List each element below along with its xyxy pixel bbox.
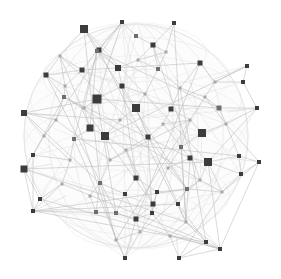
node-square bbox=[225, 123, 228, 126]
node-square bbox=[134, 217, 139, 222]
node-square bbox=[72, 137, 76, 141]
graph-node bbox=[134, 34, 138, 38]
node-square bbox=[64, 85, 67, 88]
node-square bbox=[132, 104, 140, 112]
node-square bbox=[59, 55, 62, 58]
node-square bbox=[98, 181, 102, 185]
graph-node bbox=[134, 176, 139, 181]
graph-node bbox=[98, 181, 102, 185]
node-square bbox=[177, 256, 181, 260]
node-square bbox=[167, 167, 170, 170]
node-square bbox=[125, 149, 128, 152]
graph-node bbox=[119, 119, 122, 122]
node-square bbox=[61, 183, 64, 186]
graph-node bbox=[139, 231, 142, 234]
graph-node bbox=[237, 154, 241, 158]
node-square bbox=[123, 256, 127, 260]
graph-node bbox=[146, 135, 151, 140]
node-square bbox=[169, 107, 174, 112]
graph-node bbox=[151, 202, 156, 207]
graph-node bbox=[185, 221, 188, 224]
graph-node bbox=[38, 197, 42, 201]
graph-node bbox=[44, 73, 49, 78]
graph-node bbox=[214, 81, 217, 84]
graph-node bbox=[21, 110, 27, 116]
graph-node bbox=[123, 192, 127, 196]
graph-node bbox=[80, 25, 88, 33]
node-square bbox=[146, 135, 151, 140]
node-square bbox=[83, 107, 86, 110]
node-square bbox=[114, 211, 118, 215]
graph-node bbox=[120, 20, 124, 24]
graph-node bbox=[101, 132, 109, 140]
graph-node bbox=[255, 106, 259, 110]
graph-node bbox=[55, 119, 58, 122]
node-square bbox=[204, 96, 207, 99]
node-square bbox=[165, 51, 168, 54]
graph-node bbox=[241, 80, 245, 84]
node-square bbox=[221, 191, 224, 194]
graph-node bbox=[21, 166, 28, 173]
graph-node bbox=[94, 210, 98, 214]
node-square bbox=[172, 21, 176, 25]
graph-node bbox=[69, 159, 72, 162]
graph-node bbox=[217, 106, 222, 111]
graph-node bbox=[239, 172, 243, 176]
node-square bbox=[55, 119, 58, 122]
node-square bbox=[21, 166, 28, 173]
node-square bbox=[134, 34, 138, 38]
graph-node bbox=[115, 65, 121, 71]
node-square bbox=[120, 84, 125, 89]
graph-node bbox=[204, 96, 207, 99]
graph-node bbox=[204, 240, 208, 244]
graph-node bbox=[167, 167, 170, 170]
node-square bbox=[38, 197, 42, 201]
node-square bbox=[150, 211, 154, 215]
graph-node bbox=[31, 209, 35, 213]
graph-node bbox=[204, 158, 212, 166]
node-square bbox=[115, 239, 118, 242]
node-square bbox=[217, 106, 222, 111]
graph-node bbox=[188, 156, 193, 161]
node-square bbox=[80, 25, 88, 33]
node-square bbox=[176, 202, 180, 206]
graph-node bbox=[155, 190, 159, 194]
node-square bbox=[245, 64, 249, 68]
graph-node bbox=[62, 95, 66, 99]
graph-node bbox=[87, 125, 94, 132]
graph-node bbox=[189, 119, 192, 122]
graph-node bbox=[156, 67, 160, 71]
node-square bbox=[95, 49, 99, 53]
node-square bbox=[123, 192, 127, 196]
graph-node bbox=[132, 104, 140, 112]
node-square bbox=[204, 158, 212, 166]
graph-node bbox=[115, 239, 118, 242]
node-square bbox=[188, 156, 193, 161]
graph-node bbox=[59, 55, 62, 58]
graph-node bbox=[125, 149, 128, 152]
node-square bbox=[89, 195, 92, 198]
node-square bbox=[109, 159, 112, 162]
graph-node bbox=[221, 191, 224, 194]
node-square bbox=[241, 80, 245, 84]
node-square bbox=[179, 87, 182, 90]
node-square bbox=[257, 160, 261, 164]
graph-node bbox=[179, 87, 182, 90]
graph-node bbox=[176, 202, 180, 206]
node-square bbox=[239, 172, 243, 176]
graph-node bbox=[120, 84, 125, 89]
sphere-body bbox=[24, 24, 248, 248]
node-square bbox=[255, 106, 259, 110]
node-square bbox=[80, 68, 85, 73]
graph-node bbox=[64, 85, 67, 88]
node-square bbox=[204, 240, 208, 244]
graph-node bbox=[169, 107, 174, 112]
graph-node bbox=[162, 123, 165, 126]
node-square bbox=[69, 159, 72, 162]
graph-node bbox=[93, 95, 102, 104]
graph-node bbox=[123, 256, 127, 260]
node-square bbox=[87, 125, 94, 132]
graph-node bbox=[177, 256, 181, 260]
graph-node bbox=[134, 217, 139, 222]
node-square bbox=[93, 95, 102, 104]
